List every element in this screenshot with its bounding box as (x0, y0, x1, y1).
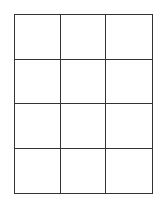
grid-cell-r1-c3 (106, 15, 152, 60)
grid-cell-r4-c1 (15, 149, 61, 194)
grid-cell-r4-c2 (61, 149, 107, 194)
grid-cell-r2-c2 (61, 60, 107, 105)
grid-cell-r4-c3 (106, 149, 152, 194)
grid-cell-r3-c2 (61, 104, 107, 149)
grid-cell-r1-c1 (15, 15, 61, 60)
empty-grid (14, 14, 153, 194)
grid-cell-r2-c1 (15, 60, 61, 105)
grid-cell-r1-c2 (61, 15, 107, 60)
grid-cell-r3-c3 (106, 104, 152, 149)
grid-cell-r3-c1 (15, 104, 61, 149)
grid-cell-r2-c3 (106, 60, 152, 105)
